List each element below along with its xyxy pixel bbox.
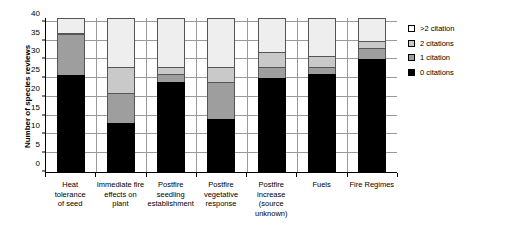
bar-segment--2-citation — [358, 18, 386, 41]
y-axis-tick-label: 0 — [10, 159, 46, 168]
x-axis-label-line: Postfire — [147, 180, 195, 190]
bar-slot — [96, 18, 146, 172]
bar-slot — [297, 18, 347, 172]
bar-segment-0-citations — [258, 78, 286, 172]
plot-area: 0510152025303540 — [45, 18, 397, 173]
bar-segment-1-citation — [308, 67, 336, 75]
legend-item-label: 0 citations — [420, 68, 454, 77]
x-axis-label-4: Postfirevegetativeresponse — [196, 180, 246, 218]
bar-segment-0-citations — [308, 74, 336, 172]
bar-segment--2-citation — [258, 18, 286, 52]
x-axis-label-7: Fire Regimes — [347, 180, 397, 218]
bar-segment-0-citations — [57, 75, 85, 172]
bar-segment-2-citations — [107, 67, 135, 93]
x-axis-label-6: Fuels — [296, 180, 346, 218]
bar-slot — [347, 18, 397, 172]
bar-slot — [196, 18, 246, 172]
bar-segment--2-citation — [57, 18, 85, 33]
legend-item[interactable]: 0 citations — [408, 68, 454, 77]
legend-item-label: 1 citation — [420, 53, 450, 62]
x-axis-label-line: seedling — [147, 190, 195, 200]
bar-segment--2-citation — [107, 18, 135, 67]
x-axis-label-line: Fuels — [297, 180, 345, 190]
stacked-bar[interactable] — [258, 18, 286, 172]
x-axis-label-2: Immediate fireeffects onplant — [95, 180, 145, 218]
x-axis-tick-mark — [246, 173, 247, 177]
stacked-bar[interactable] — [57, 18, 85, 172]
bar-segment-2-citations — [157, 67, 185, 75]
bar-segment-0-citations — [107, 123, 135, 172]
stacked-bar[interactable] — [308, 18, 336, 172]
bar-segment-1-citation — [207, 82, 235, 120]
x-axis-label-line: Postfire — [247, 180, 295, 190]
bar-slot — [46, 18, 96, 172]
x-axis-label-line: vegetative — [197, 190, 245, 200]
y-axis-tick-label: 30 — [10, 46, 46, 55]
x-axis-tick-mark — [95, 173, 96, 177]
stacked-bar[interactable] — [207, 18, 235, 172]
x-axis-label-line: response — [197, 199, 245, 209]
x-axis-label-1: Heat toleranceof seed — [45, 180, 95, 218]
bar-segment-2-citations — [308, 56, 336, 67]
x-axis-label-line: effects on — [96, 190, 144, 200]
bar-segment-0-citations — [358, 59, 386, 172]
y-axis-tick-label: 5 — [10, 140, 46, 149]
x-axis-tick-mark — [296, 173, 297, 177]
y-axis-tick-label: 25 — [10, 65, 46, 74]
x-axis-label-line: unknown) — [247, 209, 295, 219]
x-axis-label-line: plant — [96, 199, 144, 209]
x-axis-label-line: Fire Regimes — [348, 180, 396, 190]
y-axis-tick-label: 15 — [10, 102, 46, 111]
x-axis-tick-mark — [397, 173, 398, 177]
bar-segment-2-citations — [207, 67, 235, 82]
bar-segment-2-citations — [358, 41, 386, 49]
legend-item-label: 2 citations — [420, 39, 454, 48]
y-axis-tick-label: 40 — [10, 8, 46, 17]
legend-item[interactable]: 2 citations — [408, 39, 454, 48]
stacked-bar[interactable] — [358, 18, 386, 172]
x-axis-label-3: Postfireseedlingestablishment — [146, 180, 196, 218]
swatch-gt2-citation-icon — [408, 25, 415, 32]
legend: >2 citation2 citations1 citation0 citati… — [408, 24, 454, 82]
bar-segment-0-citations — [207, 119, 235, 172]
bar-segment-0-citations — [157, 82, 185, 172]
bar-segment--2-citation — [308, 18, 336, 56]
x-axis-tick-mark — [146, 173, 147, 177]
x-axis-label-line: Postfire — [197, 180, 245, 190]
x-axis-tick-mark — [347, 173, 348, 177]
y-axis-title: Number of species reviews — [23, 22, 32, 172]
x-axis-label-line: Immediate fire — [96, 180, 144, 190]
x-axis-label-line: establishment — [147, 199, 195, 209]
swatch-2-citations-icon — [408, 40, 415, 47]
x-axis-label-line: Heat tolerance — [46, 180, 94, 199]
y-axis-tick-label: 20 — [10, 83, 46, 92]
bar-slot — [146, 18, 196, 172]
bar-segment-1-citation — [358, 48, 386, 59]
bar-segment--2-citation — [207, 18, 235, 67]
stacked-bar[interactable] — [107, 18, 135, 172]
bar-segment-1-citation — [57, 34, 85, 75]
x-axis-tick-mark — [196, 173, 197, 177]
x-axis-label-line: (source — [247, 199, 295, 209]
bar-segment--2-citation — [157, 18, 185, 67]
x-axis-ticks — [45, 173, 397, 178]
y-axis-tick-label: 35 — [10, 27, 46, 36]
bar-slot — [247, 18, 297, 172]
bar-segment-1-citation — [258, 67, 286, 78]
x-axis-tick-mark — [45, 173, 46, 177]
x-axis-label-line: increase — [247, 190, 295, 200]
bar-segment-1-citation — [157, 74, 185, 82]
stacked-bar[interactable] — [157, 18, 185, 172]
x-axis-label-line: of seed — [46, 199, 94, 209]
bar-segment-1-citation — [107, 93, 135, 123]
swatch-1-citation-icon — [408, 54, 415, 61]
swatch-0-citations-icon — [408, 69, 415, 76]
x-axis-labels: Heat toleranceof seedImmediate fireeffec… — [45, 180, 397, 218]
stacked-bar-chart: Number of species reviews 05101520253035… — [0, 0, 507, 241]
x-axis-label-5: Postfireincrease(sourceunknown) — [246, 180, 296, 218]
bar-segment-2-citations — [258, 52, 286, 67]
bars-container — [46, 18, 397, 172]
legend-item-label: >2 citation — [420, 24, 454, 33]
legend-item[interactable]: 1 citation — [408, 53, 454, 62]
legend-item[interactable]: >2 citation — [408, 24, 454, 33]
